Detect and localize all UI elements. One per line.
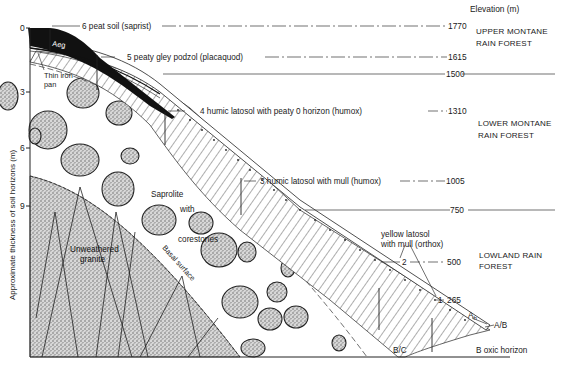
zone-lower-line2: RAIN FOREST — [478, 131, 534, 140]
zone-lowland-line2: FOREST — [479, 262, 513, 271]
y-tick-9: 9 — [20, 201, 25, 211]
y-axis-ticks: 0 3 6 9 — [20, 23, 30, 211]
elevation-1770: 1770 — [448, 21, 467, 31]
a-horizon-label: Ah — [468, 311, 477, 321]
saprolite-label-line1: Saprolite — [151, 190, 184, 199]
elevation-265: 265 — [447, 295, 461, 305]
profile-3-label: 3 humic latosol with mull (humox) — [260, 177, 381, 186]
vegetation-zone-upper-montane: UPPER MONTANE RAIN FOREST — [476, 27, 548, 48]
y-tick-0: 0 — [20, 23, 25, 33]
elevation-1615: 1615 — [448, 52, 467, 62]
profile-2-label: 2 — [402, 258, 407, 267]
zone-upper-line2: RAIN FOREST — [476, 39, 532, 48]
iron-pan-label-line1: Thin iron — [44, 71, 73, 80]
elevation-1500: 1500 — [446, 69, 465, 79]
unweathered-label-line2: granite — [80, 255, 105, 264]
elevation-1310: 1310 — [448, 106, 467, 116]
zone-lowland-line1: LOWLAND RAIN — [479, 251, 542, 260]
ab-horizon-label: A/B — [494, 321, 508, 330]
saprolite-label-line3: corestones — [178, 235, 218, 244]
zone-upper-line1: UPPER MONTANE — [476, 27, 548, 36]
y-tick-6: 6 — [20, 143, 25, 153]
iron-pan-label-line2: pan — [44, 80, 56, 89]
b-oxic-horizon-label: B oxic horizon — [476, 346, 528, 355]
profile-5-label: 5 peaty gley podzol (placaquod) — [127, 53, 243, 62]
profile-6-label: 6 peat soil (saprist) — [82, 22, 151, 31]
bc-horizon-label: B/C — [393, 346, 407, 355]
profile-1-label: 1 — [438, 296, 443, 305]
y-axis-title: Approximate thickness of soil horizons (… — [8, 149, 17, 300]
elevation-1005: 1005 — [446, 176, 465, 186]
vegetation-zone-lowland: LOWLAND RAIN FOREST — [479, 251, 542, 271]
saprolite-label-line2: with — [179, 205, 195, 214]
elevation-axis-title: Elevation (m) — [470, 4, 520, 14]
unweathered-label-line1: Unweathered — [70, 245, 119, 254]
soil-catena-diagram: 0 3 6 9 Approximate thickness of soil ho… — [0, 0, 565, 368]
y-tick-3: 3 — [20, 87, 25, 97]
vegetation-zone-lower-montane: LOWER MONTANE RAIN FOREST — [478, 119, 552, 140]
yellow-latosol-label-line2: with mull (orthox) — [380, 240, 444, 249]
aeg-label: Aeg — [52, 39, 66, 50]
zone-lower-line1: LOWER MONTANE — [478, 119, 552, 128]
elevation-750: 750 — [450, 205, 464, 215]
profile-4-label: 4 humic latosol with peaty 0 horizon (hu… — [200, 107, 362, 116]
a-horizon-subscript: h — [473, 315, 476, 321]
elevation-500: 500 — [447, 257, 461, 267]
yellow-latosol-label-line1: yellow latosol — [381, 230, 430, 239]
